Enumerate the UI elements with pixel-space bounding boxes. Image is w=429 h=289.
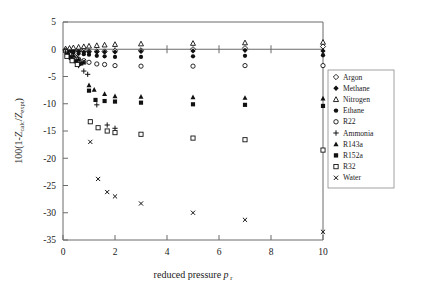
data-point xyxy=(87,53,91,57)
data-point xyxy=(94,102,99,107)
data-point xyxy=(85,72,90,77)
data-point xyxy=(191,54,195,58)
data-point xyxy=(243,95,248,100)
data-point xyxy=(103,99,107,103)
data-point xyxy=(113,94,118,99)
x-axis-tick-label: 10 xyxy=(318,247,328,257)
data-point xyxy=(102,62,106,66)
data-point xyxy=(191,64,195,68)
y-axis-tick-label: -35 xyxy=(43,235,56,245)
x-axis-title: reduced pressure p r xyxy=(154,269,234,281)
legend-label-nitrogen: Nitrogen xyxy=(343,95,370,104)
data-point xyxy=(243,103,247,107)
data-point xyxy=(243,138,247,142)
data-point xyxy=(96,126,100,130)
data-point xyxy=(95,62,99,66)
y-axis-tick-label: 0 xyxy=(51,45,56,55)
legend-marker-ethane xyxy=(334,108,338,112)
legend-label-r143a: R143a xyxy=(343,140,363,149)
data-point xyxy=(113,63,117,67)
series-r152a xyxy=(65,53,325,108)
data-point xyxy=(191,102,195,106)
data-point xyxy=(95,54,99,58)
data-point xyxy=(81,44,86,49)
data-point xyxy=(139,132,143,136)
data-point xyxy=(92,87,97,92)
y-axis-tick-label: -25 xyxy=(43,181,56,191)
legend-label-r22: R22 xyxy=(343,117,356,126)
data-point xyxy=(87,83,92,88)
data-point xyxy=(105,129,109,133)
data-point xyxy=(243,54,247,58)
y-axis-tick-label: -5 xyxy=(48,72,56,82)
chart-legend: ArgonMethaneNitrogenEthaneR22AmmoniaR143… xyxy=(328,70,394,188)
data-point xyxy=(102,54,106,58)
data-point xyxy=(191,136,195,140)
data-point xyxy=(321,40,326,45)
data-point xyxy=(243,218,247,222)
data-series-layer xyxy=(63,40,326,234)
y-axis-tick-label: -15 xyxy=(43,126,56,136)
data-point xyxy=(139,64,143,68)
y-axis-tick-label: -10 xyxy=(43,99,56,109)
series-water xyxy=(69,50,325,234)
data-point xyxy=(88,120,92,124)
data-point xyxy=(113,194,117,198)
legend-label-ammonia: Ammonia xyxy=(343,129,374,138)
data-point xyxy=(105,190,109,194)
legend-label-methane: Methane xyxy=(343,84,370,93)
data-point xyxy=(321,104,325,108)
data-point xyxy=(321,63,325,67)
data-point xyxy=(139,101,143,105)
x-axis-tick-label: 8 xyxy=(269,247,274,257)
chart-figure: 50-5-10-15-20-25-30-350246810 ArgonMetha… xyxy=(0,0,429,289)
deviation-scatter-plot: 50-5-10-15-20-25-30-350246810 ArgonMetha… xyxy=(0,0,429,289)
data-point xyxy=(76,44,81,49)
data-point xyxy=(321,53,325,57)
legend-label-r152a: R152a xyxy=(343,151,363,160)
data-point xyxy=(243,63,247,67)
axes-layer: 50-5-10-15-20-25-30-350246810 xyxy=(43,17,328,257)
y-axis-tick-label: -20 xyxy=(43,154,56,164)
data-point xyxy=(113,131,117,135)
data-point xyxy=(191,211,195,215)
data-point xyxy=(139,201,143,205)
data-point xyxy=(191,41,196,46)
data-point xyxy=(88,140,92,144)
data-point xyxy=(113,55,117,59)
data-point xyxy=(139,94,144,99)
data-point xyxy=(139,55,143,59)
data-point xyxy=(321,148,325,152)
x-axis-tick-label: 2 xyxy=(113,247,118,257)
legend-marker-r152a xyxy=(334,153,338,157)
legend-label-water: Water xyxy=(343,173,361,182)
data-point xyxy=(96,177,100,181)
x-axis-tick-label: 0 xyxy=(61,247,66,257)
legend-label-r32: R32 xyxy=(343,162,356,171)
data-point xyxy=(87,89,91,93)
data-point xyxy=(139,41,144,46)
data-point xyxy=(75,62,79,66)
data-point xyxy=(70,59,74,63)
data-point xyxy=(191,95,196,100)
data-point xyxy=(102,42,107,47)
legend-marker-r22 xyxy=(334,120,338,124)
data-point xyxy=(82,52,86,56)
legend-marker-r32 xyxy=(334,164,338,168)
y-axis-title: 100(1-Zcalc/Zexpt) xyxy=(13,98,25,164)
data-point xyxy=(87,43,92,48)
data-point xyxy=(81,68,86,73)
data-point xyxy=(113,99,117,103)
x-axis-tick-label: 4 xyxy=(165,247,170,257)
y-axis-tick-label: -30 xyxy=(43,208,56,218)
data-point xyxy=(65,54,69,58)
legend-label-ethane: Ethane xyxy=(343,106,365,115)
data-point xyxy=(87,60,91,64)
data-point xyxy=(112,126,117,131)
data-point xyxy=(321,96,326,101)
data-point xyxy=(94,43,99,48)
data-point xyxy=(71,45,76,50)
data-point xyxy=(113,42,118,47)
data-point xyxy=(243,40,248,45)
data-point xyxy=(105,122,110,127)
